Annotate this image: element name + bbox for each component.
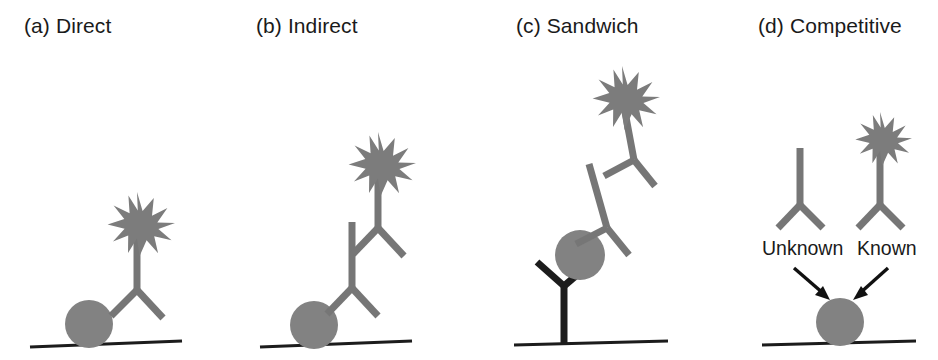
primary-antibody bbox=[576, 164, 629, 255]
plate-baseline bbox=[30, 341, 182, 347]
annotation-unknown: Unknown bbox=[762, 237, 843, 259]
plate-baseline bbox=[260, 341, 412, 347]
antigen-circle bbox=[816, 298, 864, 346]
antigen-circle bbox=[65, 300, 113, 348]
panel-direct: (a) Direct bbox=[24, 0, 244, 360]
panel-art-competitive: Unknown Known bbox=[758, 0, 938, 360]
annotation-known: Known bbox=[857, 237, 917, 259]
arrow-known-to-antigen bbox=[853, 268, 888, 300]
panel-competitive: (d) Competitive bbox=[758, 0, 938, 360]
enzyme-label-starburst bbox=[349, 132, 416, 196]
enzyme-label-starburst bbox=[593, 66, 660, 130]
panel-indirect: (b) Indirect bbox=[256, 0, 488, 360]
unknown-antibody bbox=[778, 148, 823, 228]
plate-baseline bbox=[514, 341, 668, 345]
panel-art-direct bbox=[24, 0, 244, 360]
arrow-unknown-to-antigen bbox=[794, 268, 830, 300]
panel-art-sandwich bbox=[516, 0, 756, 360]
enzyme-label-starburst bbox=[108, 192, 175, 256]
panel-art-indirect bbox=[256, 0, 488, 360]
enzyme-label-starburst bbox=[855, 112, 912, 166]
panel-sandwich: (c) Sandwich bbox=[516, 0, 756, 360]
elisa-assay-figure: (a) Direct (b) Indirect bbox=[0, 0, 938, 360]
antigen-circle bbox=[555, 230, 605, 280]
